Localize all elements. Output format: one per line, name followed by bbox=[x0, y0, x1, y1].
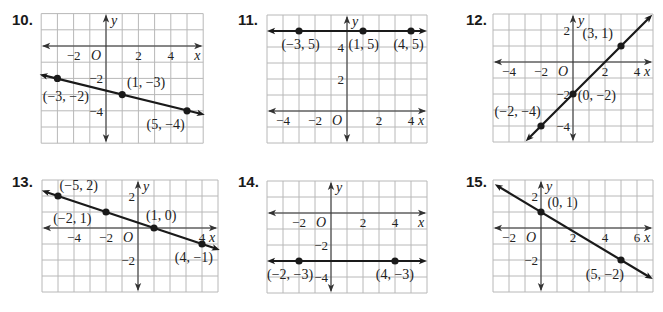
data-point bbox=[537, 208, 544, 215]
origin-label: O bbox=[526, 230, 536, 245]
graph-15: xyO−22462−2(0, 1)(5, −2) bbox=[0, 0, 663, 312]
data-point bbox=[617, 256, 624, 263]
y-axis-label: y bbox=[544, 179, 553, 194]
y-tick-label: 2 bbox=[532, 189, 539, 204]
point-label: (5, −2) bbox=[586, 267, 625, 283]
x-axis-label: x bbox=[643, 230, 651, 245]
y-tick-label: −2 bbox=[524, 253, 538, 268]
x-tick-label: 6 bbox=[634, 230, 641, 245]
point-label: (0, 1) bbox=[547, 195, 578, 211]
x-tick-label: −2 bbox=[502, 230, 516, 245]
x-tick-label: 4 bbox=[602, 230, 609, 245]
